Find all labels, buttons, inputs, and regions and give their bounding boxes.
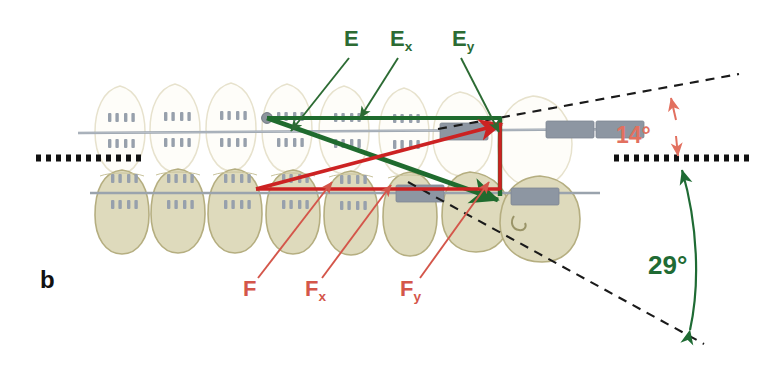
- figure-canvas: E Ex Ey F Fx Fy 14° 29° b: [0, 0, 763, 369]
- panel-label-b: b: [40, 266, 55, 294]
- angle-label-14: 14°: [616, 122, 651, 149]
- vector-label-Ex-text: E: [390, 26, 405, 51]
- lower-tooth: [151, 169, 205, 253]
- upper-second-molar-tube: [546, 121, 594, 138]
- upper-dental-arch: [78, 83, 644, 187]
- vector-label-Fx: Fx: [305, 276, 326, 304]
- upper-tooth: [206, 83, 256, 171]
- upper-tooth: [262, 84, 312, 172]
- upper-tooth: [150, 84, 200, 172]
- upper-molar: [498, 96, 572, 187]
- lower-tooth: [95, 170, 149, 254]
- vector-label-Fy-subscript: y: [413, 289, 421, 304]
- lower-second-molar-tube: [511, 188, 559, 205]
- vector-label-Ex: Ex: [390, 26, 412, 54]
- vector-label-Ey-subscript: y: [467, 39, 475, 54]
- vector-label-Fy: Fy: [400, 276, 421, 304]
- angle-14-upper-arrow: [671, 98, 676, 120]
- vector-label-F-text: F: [243, 276, 256, 301]
- angle-label-29: 29°: [648, 250, 687, 281]
- vector-label-E-text: E: [344, 26, 359, 51]
- vector-label-Ex-subscript: x: [405, 39, 413, 54]
- vector-label-Fx-text: F: [305, 276, 318, 301]
- angle-14-annotation: [671, 98, 678, 156]
- force-vector-scene: [0, 0, 763, 369]
- vector-label-Fx-subscript: x: [318, 289, 326, 304]
- lower-tooth: [208, 169, 262, 253]
- vector-label-Ey-text: E: [452, 26, 467, 51]
- angle-14-lower-arrow: [676, 136, 678, 156]
- vector-label-Fy-text: F: [400, 276, 413, 301]
- vector-label-F: F: [243, 276, 256, 304]
- vector-label-E: E: [344, 26, 359, 54]
- vector-label-Ey: Ey: [452, 26, 474, 54]
